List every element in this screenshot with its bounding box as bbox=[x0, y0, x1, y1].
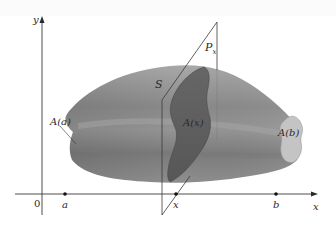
y-axis-label: y bbox=[32, 14, 39, 25]
plane-label-subscript: x bbox=[212, 48, 216, 56]
point-b bbox=[274, 192, 278, 196]
y-axis-arrow-icon bbox=[40, 16, 45, 23]
point-b-label: b bbox=[273, 199, 279, 210]
cross-section-aa-label: A(a) bbox=[49, 116, 71, 127]
top-band bbox=[0, 0, 336, 16]
point-x-label: x bbox=[173, 199, 179, 210]
end-face-b bbox=[280, 116, 303, 162]
x-axis-label: x bbox=[313, 201, 319, 212]
point-x bbox=[174, 192, 178, 196]
x-axis-arrow-icon bbox=[311, 192, 318, 197]
point-a bbox=[63, 192, 67, 196]
solid-label: S bbox=[155, 78, 163, 91]
cross-section-ab-label: A(b) bbox=[277, 127, 300, 138]
plane-label: Px bbox=[204, 41, 216, 56]
origin-label: 0 bbox=[34, 198, 40, 209]
cross-section-ax-label: A(x) bbox=[182, 117, 204, 128]
solid-cross-section-figure: y x 0 a x b S Px A(x) A(a) A(b) bbox=[0, 0, 336, 228]
point-a-label: a bbox=[62, 199, 68, 210]
